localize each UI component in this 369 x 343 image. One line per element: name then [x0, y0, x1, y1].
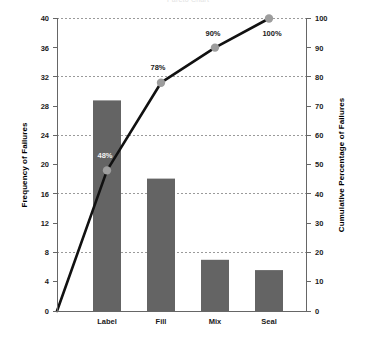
- right-axis-title: Cumulative Percentage of Failures: [337, 97, 346, 232]
- right-tick-label-20: 20: [315, 248, 323, 257]
- left-tick-label-40: 40: [41, 14, 49, 23]
- right-axis: 100 90 80 70 60 50 40 30 20 10 0 Cumulat…: [307, 14, 347, 316]
- bottom-axis: Label Fill Mix Seal: [57, 312, 307, 327]
- cumulative-point-label: [103, 166, 111, 174]
- bar-mix: [201, 260, 229, 311]
- right-tick-label-10: 10: [315, 277, 323, 286]
- right-tick-label-70: 70: [315, 102, 323, 111]
- cropped-chart-title: Pareto Chart: [108, 0, 268, 5]
- left-tick-label-8: 8: [45, 248, 49, 257]
- right-tick-label-50: 50: [315, 160, 323, 169]
- category-label-seal: Seal: [261, 317, 276, 326]
- category-label-fill: Fill: [156, 317, 167, 326]
- left-axis: 40 36 32 28 24 20 16 12 8 4 0 Frequency …: [20, 14, 58, 316]
- point-label-90: 90%: [205, 29, 220, 38]
- left-axis-title: Frequency of Failures: [20, 122, 29, 208]
- bars-group: [93, 100, 283, 311]
- point-label-100: 100%: [262, 29, 282, 38]
- cumulative-point-fill: [157, 79, 165, 87]
- right-tick-label-40: 40: [315, 190, 323, 199]
- right-tick-label-30: 30: [315, 219, 323, 228]
- left-tick-label-32: 32: [41, 73, 49, 82]
- cumulative-point-seal: [265, 14, 273, 22]
- left-tick-label-16: 16: [41, 190, 49, 199]
- point-label-78: 78%: [150, 63, 165, 72]
- right-tick-label-90: 90: [315, 44, 323, 53]
- pareto-chart: Pareto Chart: [0, 0, 369, 343]
- left-tick-label-4: 4: [45, 277, 50, 286]
- right-tick-label-100: 100: [315, 14, 328, 23]
- category-label-label: Label: [97, 317, 117, 326]
- right-tick-label-60: 60: [315, 131, 323, 140]
- point-label-48: 48%: [97, 151, 112, 160]
- right-tick-label-80: 80: [315, 73, 323, 82]
- bar-fill: [147, 179, 175, 311]
- bar-label: [93, 100, 121, 311]
- chart-canvas: 48% 78% 90% 100% 40 36 32 28 24 20 16: [0, 0, 369, 343]
- cumulative-point-mix: [211, 43, 219, 51]
- left-tick-label-24: 24: [41, 131, 50, 140]
- left-tick-label-28: 28: [41, 102, 49, 111]
- bar-seal: [255, 270, 283, 311]
- left-tick-label-36: 36: [41, 44, 49, 53]
- right-tick-label-0: 0: [315, 307, 319, 316]
- category-label-mix: Mix: [209, 317, 222, 326]
- left-tick-label-12: 12: [41, 219, 49, 228]
- left-tick-label-20: 20: [41, 160, 49, 169]
- left-tick-label-0: 0: [45, 307, 49, 316]
